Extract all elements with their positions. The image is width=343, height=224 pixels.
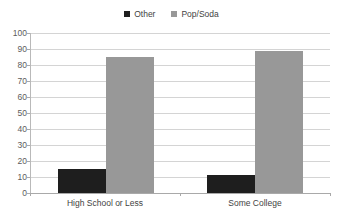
- y-axis-tick-label: 80: [1, 61, 27, 70]
- legend-item-pop-soda: Pop/Soda: [171, 10, 218, 19]
- y-axis-tick-label: 90: [1, 45, 27, 54]
- bar-group: [181, 33, 331, 193]
- bar-group: [31, 33, 181, 193]
- square-swatch-icon: [124, 11, 130, 17]
- bar-other[interactable]: [58, 169, 106, 193]
- x-axis-labels: High School or Less Some College: [30, 198, 330, 208]
- bar-chart: Other Pop/Soda 1009080706050403020100 Hi…: [0, 0, 343, 224]
- y-axis-tick-label: 30: [1, 141, 27, 150]
- y-axis-tick-label: 10: [1, 173, 27, 182]
- y-axis-tick-label: 100: [1, 29, 27, 38]
- x-axis-label-1: Some College: [180, 198, 330, 208]
- plot-area-wrapper: [30, 33, 330, 193]
- y-axis-tick-label: 50: [1, 109, 27, 118]
- y-axis-tick-label: 20: [1, 157, 27, 166]
- bar-groups: [31, 33, 330, 193]
- y-axis-tick-label: 40: [1, 125, 27, 134]
- x-axis-tick-mark: [330, 193, 331, 196]
- bar-other[interactable]: [207, 175, 255, 193]
- y-axis-tick-label: 70: [1, 77, 27, 86]
- x-axis-tick-mark: [180, 193, 181, 196]
- y-axis-tick-label: 0: [1, 189, 27, 198]
- y-axis-tick-label: 60: [1, 93, 27, 102]
- chart-legend: Other Pop/Soda: [0, 7, 343, 21]
- legend-label-pop-soda: Pop/Soda: [181, 10, 218, 19]
- legend-label-other: Other: [134, 10, 155, 19]
- bar-pop-soda[interactable]: [106, 57, 154, 193]
- legend-item-other: Other: [124, 10, 155, 19]
- bar-pop-soda[interactable]: [255, 51, 303, 193]
- x-axis-label-0: High School or Less: [30, 198, 180, 208]
- plot-area: [30, 33, 330, 193]
- x-axis-tick-mark: [30, 193, 31, 196]
- square-swatch-icon: [171, 11, 177, 17]
